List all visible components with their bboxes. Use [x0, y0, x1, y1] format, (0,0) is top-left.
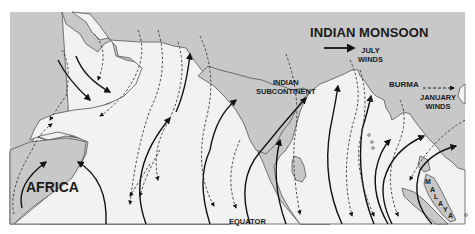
label-indian: INDIAN: [256, 78, 316, 87]
label-subcontinent: SUBCONTINENT: [256, 87, 316, 96]
label-equator: EQUATOR: [229, 218, 266, 226]
label-burma: BURMA: [389, 81, 419, 89]
label-malaya-letter: A: [430, 186, 435, 193]
legend-january-line1: JANUARY: [420, 93, 456, 102]
label-indian-subcontinent: INDIAN SUBCONTINENT: [256, 78, 316, 96]
map-title: INDIAN MONSOON: [310, 26, 428, 39]
label-malaya-letter: A: [448, 212, 453, 219]
legend-july-line2: WINDS: [358, 55, 383, 64]
label-malaya-letter: L: [434, 193, 438, 200]
label-malaya-letter: M: [425, 178, 431, 185]
label-africa: AFRICA: [26, 180, 79, 194]
legend-january-line2: WINDS: [420, 102, 456, 111]
legend-july-label: JULY WINDS: [358, 46, 383, 64]
legend-july-line1: JULY: [358, 46, 383, 55]
legend-january-label: JANUARY WINDS: [420, 93, 456, 111]
label-malaya-letter: Y: [443, 206, 448, 213]
